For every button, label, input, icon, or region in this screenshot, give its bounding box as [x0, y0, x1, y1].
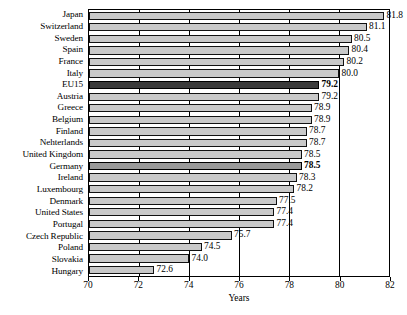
- category-label: Czech Republic: [0, 230, 86, 242]
- bar-value-label: 78.3: [297, 173, 316, 182]
- bar: [89, 173, 297, 181]
- category-label: EU15: [0, 79, 86, 91]
- x-axis-title: Years: [88, 294, 390, 303]
- category-label: United States: [0, 207, 86, 219]
- category-label: Italy: [0, 67, 86, 79]
- bar: [89, 243, 202, 251]
- bar-value-label: 77.5: [277, 196, 296, 205]
- category-label: Poland: [0, 242, 86, 254]
- life-expectancy-bar-chart: JapanSwitzerlandSwedenSpainFranceItalyEU…: [0, 0, 407, 315]
- bar-row: 72.6: [89, 264, 389, 276]
- bar-row: 78.7: [89, 137, 389, 149]
- category-label: France: [0, 56, 86, 68]
- bar-value-label: 74.5: [202, 242, 221, 251]
- bar: [89, 104, 312, 112]
- bar-row: 78.3: [89, 172, 389, 184]
- bar-row: 80.0: [89, 68, 389, 80]
- bar-row: 79.2: [89, 79, 389, 91]
- category-label: Japan: [0, 9, 86, 21]
- bar-value-label: 72.6: [154, 265, 173, 274]
- bar-row: 81.8: [89, 10, 389, 22]
- bar: [89, 197, 277, 205]
- x-tick-label: 82: [385, 281, 394, 290]
- bar-value-label: 78.5: [302, 150, 321, 159]
- bar-row: 78.5: [89, 160, 389, 172]
- bar: [89, 116, 312, 124]
- bar-value-label: 78.9: [312, 115, 331, 124]
- bar: [89, 46, 349, 54]
- bar: [89, 150, 302, 158]
- bar: [89, 23, 367, 31]
- bar-value-label: 79.2: [319, 92, 338, 101]
- bar-row: 80.4: [89, 45, 389, 57]
- bar-value-label: 78.2: [294, 185, 313, 194]
- bar-row: 80.5: [89, 33, 389, 45]
- category-label: Switzerland: [0, 21, 86, 33]
- bar: [89, 35, 352, 43]
- bar-row: 74.5: [89, 241, 389, 253]
- category-label: Germany: [0, 161, 86, 173]
- bar-value-label: 80.5: [352, 34, 371, 43]
- x-tick-label: 76: [234, 281, 243, 290]
- category-label: Denmark: [0, 196, 86, 208]
- bar-value-label: 80.4: [349, 46, 368, 55]
- category-label: Luxembourg: [0, 184, 86, 196]
- x-tick-label: 78: [285, 281, 294, 290]
- category-label: Finland: [0, 126, 86, 138]
- plot-area: 81.881.180.580.480.280.079.279.278.978.9…: [88, 9, 390, 277]
- bar-row: 78.2: [89, 183, 389, 195]
- bar-value-label: 81.8: [384, 11, 403, 20]
- bar: [89, 266, 154, 274]
- x-axis-ticks: 70727476788082: [88, 277, 390, 291]
- bar-value-label: 80.2: [344, 57, 363, 66]
- bar: [89, 231, 232, 239]
- bar-value-label: 75.7: [232, 231, 251, 240]
- bar-value-label: 78.7: [307, 138, 326, 147]
- bar-row: 78.5: [89, 149, 389, 161]
- bar: [89, 254, 189, 262]
- bar-row: 77.5: [89, 195, 389, 207]
- bar-value-label: 78.9: [312, 104, 331, 113]
- bar-row: 80.2: [89, 56, 389, 68]
- bar: [89, 81, 319, 89]
- bar-value-label: 78.7: [307, 127, 326, 136]
- bar: [89, 139, 307, 147]
- bar-row: 78.9: [89, 103, 389, 115]
- x-tick-label: 72: [134, 281, 143, 290]
- bar-row: 74.0: [89, 253, 389, 265]
- category-axis-labels: JapanSwitzerlandSwedenSpainFranceItalyEU…: [0, 9, 86, 277]
- bar: [89, 69, 339, 77]
- category-label: Ireland: [0, 172, 86, 184]
- category-label: Greece: [0, 102, 86, 114]
- category-label: Sweden: [0, 32, 86, 44]
- category-label: Belgium: [0, 114, 86, 126]
- bar-value-label: 78.5: [302, 161, 321, 170]
- category-label: Spain: [0, 44, 86, 56]
- bar-row: 77.4: [89, 218, 389, 230]
- bar-row: 78.7: [89, 126, 389, 138]
- bar-value-label: 77.4: [274, 208, 293, 217]
- bar: [89, 208, 274, 216]
- bar-rows: 81.881.180.580.480.280.079.279.278.978.9…: [89, 10, 389, 276]
- bar-row: 81.1: [89, 22, 389, 34]
- bar-value-label: 79.2: [319, 80, 338, 89]
- bar-value-label: 77.4: [274, 219, 293, 228]
- x-tick-label: 80: [335, 281, 344, 290]
- bar: [89, 162, 302, 170]
- bar: [89, 220, 274, 228]
- bar-row: 79.2: [89, 91, 389, 103]
- category-label: Slovakia: [0, 254, 86, 266]
- bar: [89, 58, 344, 66]
- bar-row: 75.7: [89, 230, 389, 242]
- bar: [89, 185, 294, 193]
- x-tick-label: 70: [83, 281, 92, 290]
- category-label: Austria: [0, 91, 86, 103]
- bar: [89, 12, 384, 20]
- x-tick-label: 74: [184, 281, 193, 290]
- bar: [89, 127, 307, 135]
- bar-row: 78.9: [89, 114, 389, 126]
- bar-value-label: 81.1: [367, 23, 386, 32]
- category-label: Hungary: [0, 265, 86, 277]
- category-label: Nehterlands: [0, 137, 86, 149]
- category-label: Portugal: [0, 219, 86, 231]
